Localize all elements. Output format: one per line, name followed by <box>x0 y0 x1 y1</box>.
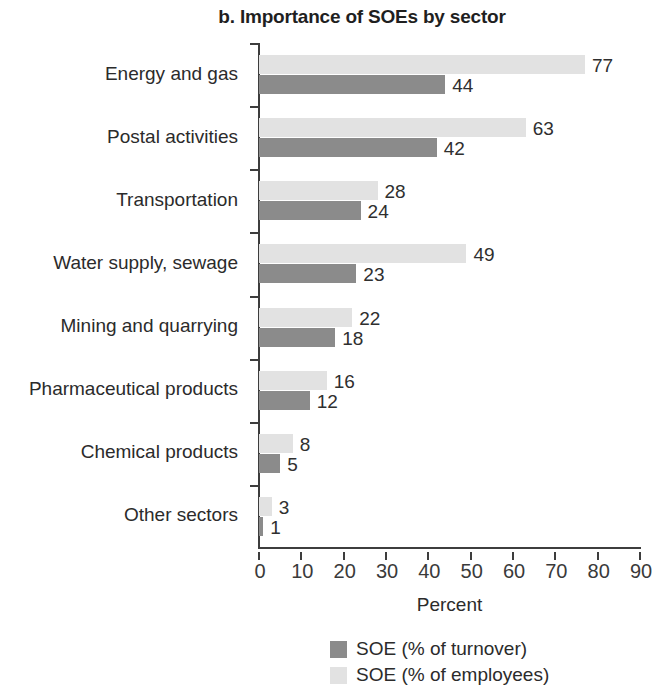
y-axis-tick <box>250 106 259 108</box>
bar-turnover <box>259 454 280 473</box>
bar-value-employees: 49 <box>473 245 494 264</box>
bar-employees <box>259 371 327 390</box>
x-axis-tick <box>639 552 641 560</box>
y-axis-category-label: Pharmaceutical products <box>0 378 238 400</box>
y-axis-category-label: Transportation <box>0 189 238 211</box>
bar-value-employees: 22 <box>359 309 380 328</box>
bar-value-turnover: 5 <box>287 455 298 474</box>
x-axis-tick <box>343 552 345 560</box>
bar-turnover <box>259 328 335 347</box>
legend-swatch <box>330 641 347 658</box>
bar-turnover <box>259 201 361 220</box>
y-axis-category-label: Water supply, sewage <box>0 252 238 274</box>
y-axis-category-label: Mining and quarrying <box>0 315 238 337</box>
bar-turnover <box>259 517 263 536</box>
y-axis-tick <box>250 359 259 361</box>
x-axis-tick <box>300 552 302 560</box>
bar-group: 4923 <box>259 232 640 295</box>
y-axis-tick <box>250 422 259 424</box>
bar-group: 1612 <box>259 359 640 422</box>
y-axis-tick <box>250 169 259 171</box>
chart-figure: b. Importance of SOEs by sector Energy a… <box>0 0 669 688</box>
bar-employees <box>259 497 272 516</box>
y-axis-category-label: Energy and gas <box>0 63 238 85</box>
legend-item: SOE (% of employees) <box>330 662 660 688</box>
bar-group: 85 <box>259 422 640 485</box>
bar-value-turnover: 18 <box>342 329 363 348</box>
bar-turnover <box>259 75 445 94</box>
bar-value-turnover: 23 <box>363 265 384 284</box>
y-axis-tick <box>250 296 259 298</box>
x-axis-title: Percent <box>259 594 640 616</box>
bar-group: 2218 <box>259 296 640 359</box>
x-axis-tick <box>385 552 387 560</box>
bar-employees <box>259 244 466 263</box>
bar-value-turnover: 1 <box>270 518 281 537</box>
x-axis-tick-label: 90 <box>616 560 666 583</box>
legend-label: SOE (% of turnover) <box>356 638 527 660</box>
y-axis-tick <box>250 232 259 234</box>
bar-value-employees: 3 <box>279 498 290 517</box>
bar-value-turnover: 12 <box>317 392 338 411</box>
bar-employees <box>259 308 352 327</box>
legend-label: SOE (% of employees) <box>356 664 549 686</box>
bar-value-employees: 63 <box>533 119 554 138</box>
bar-value-turnover: 24 <box>368 202 389 221</box>
bar-value-employees: 8 <box>300 435 311 454</box>
bar-value-turnover: 44 <box>452 76 473 95</box>
y-axis-tick <box>250 43 259 45</box>
bar-group: 31 <box>259 485 640 548</box>
bar-value-employees: 77 <box>592 56 613 75</box>
chart-title: b. Importance of SOEs by sector <box>0 6 669 28</box>
y-axis-category-label: Chemical products <box>0 441 238 463</box>
legend-item: SOE (% of turnover) <box>330 636 660 662</box>
bar-group: 6342 <box>259 106 640 169</box>
bar-value-employees: 16 <box>334 372 355 391</box>
bar-employees <box>259 55 585 74</box>
y-axis-tick <box>250 485 259 487</box>
chart-legend: SOE (% of turnover)SOE (% of employees) <box>330 636 660 688</box>
bar-employees <box>259 434 293 453</box>
bar-turnover <box>259 138 437 157</box>
x-axis-tick <box>554 552 556 560</box>
bar-value-employees: 28 <box>385 182 406 201</box>
bar-employees <box>259 181 378 200</box>
legend-swatch <box>330 667 347 684</box>
x-axis-tick <box>427 552 429 560</box>
bar-group: 7744 <box>259 43 640 106</box>
bar-value-turnover: 42 <box>444 139 465 158</box>
x-axis-tick <box>258 552 260 560</box>
bar-employees <box>259 118 526 137</box>
y-axis-category-label: Postal activities <box>0 126 238 148</box>
x-axis-tick <box>597 552 599 560</box>
bar-turnover <box>259 391 310 410</box>
bar-turnover <box>259 264 356 283</box>
x-axis-tick <box>512 552 514 560</box>
bar-group: 2824 <box>259 169 640 232</box>
y-axis-category-labels: Energy and gasPostal activitiesTransport… <box>0 43 250 548</box>
y-axis-category-label: Other sectors <box>0 504 238 526</box>
plot-area: 0102030405060708090 77446342282449232218… <box>259 43 640 548</box>
x-axis-tick <box>470 552 472 560</box>
